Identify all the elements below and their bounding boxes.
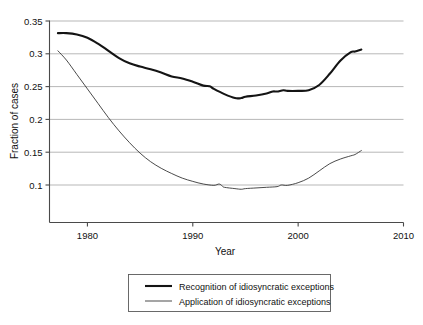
y-tick-label: 0.25 [24,81,43,92]
x-tick-label: 1980 [77,230,98,241]
x-tick-group [87,223,403,227]
y-tick-label: 0.3 [29,48,42,59]
x-tick-labels: 1980199020002010 [77,230,414,241]
x-axis-title: Year [215,246,236,257]
x-tick-label: 2010 [393,230,414,241]
x-axis [50,223,404,227]
y-axis [46,21,50,223]
series-line-recognition [58,33,361,98]
line-chart-svg: 0.10.150.20.250.30.35 1980199020002010 Y… [0,0,423,325]
y-tick-label: 0.35 [24,16,43,27]
chart-figure: 0.10.150.20.250.30.35 1980199020002010 Y… [0,0,423,325]
legend-label-application: Application of idiosyncratic exceptions [179,297,331,307]
y-axis-title: Fraction of cases [9,83,20,159]
y-tick-group [46,21,50,185]
x-tick-label: 2000 [288,230,309,241]
y-tick-labels: 0.10.150.20.250.30.35 [24,16,43,191]
series-line-application [58,51,361,189]
legend: Recognition of idiosyncratic exceptions … [129,275,335,312]
x-tick-label: 1990 [182,230,203,241]
series-group [58,33,361,189]
y-tick-label: 0.2 [29,114,42,125]
y-tick-label: 0.15 [24,147,43,158]
y-tick-label: 0.1 [29,180,42,191]
legend-label-recognition: Recognition of idiosyncratic exceptions [179,282,335,292]
